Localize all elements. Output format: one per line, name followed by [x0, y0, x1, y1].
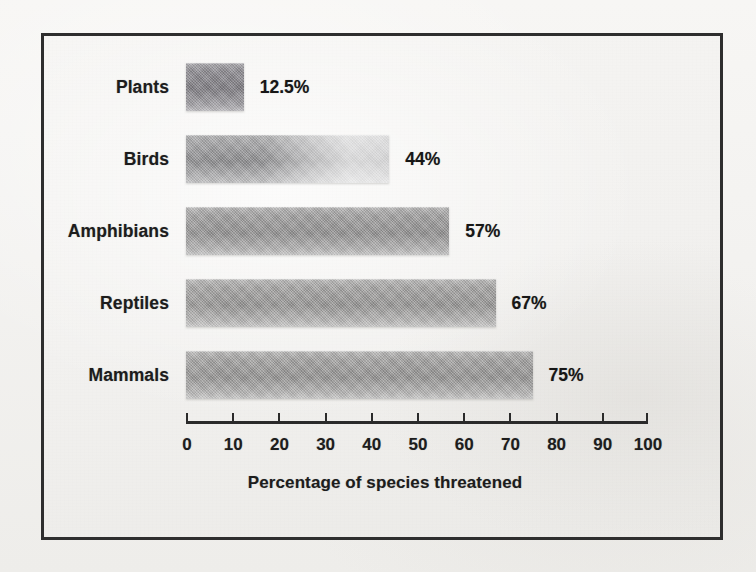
x-tick-label: 20 — [270, 435, 289, 455]
bar-row: Amphibians 57% — [44, 202, 726, 260]
bar-plants — [186, 63, 244, 111]
value-label-amphibians: 57% — [465, 221, 500, 242]
x-tick-label: 90 — [593, 435, 612, 455]
bar-amphibians — [186, 207, 449, 255]
x-axis-tick — [509, 413, 511, 424]
plot-area: Plants 12.5% Birds 44% Amphibians — [44, 36, 726, 543]
bar-group-birds: 44% — [186, 130, 440, 188]
x-tick-label: 0 — [182, 435, 191, 455]
x-axis-tick — [325, 413, 327, 424]
scanned-page: Plants 12.5% Birds 44% Amphibians — [0, 0, 756, 572]
category-label-amphibians: Amphibians — [68, 221, 169, 242]
x-tick-label: 40 — [362, 435, 381, 455]
x-tick-label: 100 — [634, 435, 662, 455]
bar-group-reptiles: 67% — [186, 274, 547, 332]
x-axis-tick — [602, 413, 604, 424]
bar-row: Mammals 75% — [44, 346, 726, 404]
category-label-birds: Birds — [124, 149, 169, 170]
value-label-plants: 12.5% — [260, 77, 310, 98]
bar-group-plants: 12.5% — [186, 58, 309, 116]
x-axis-tick — [278, 413, 280, 424]
x-tick-label: 10 — [224, 435, 243, 455]
x-tick-label: 30 — [316, 435, 335, 455]
value-label-mammals: 75% — [549, 365, 584, 386]
bar-group-mammals: 75% — [186, 346, 584, 404]
x-axis-title: Percentage of species threatened — [44, 473, 726, 493]
category-label-mammals: Mammals — [89, 365, 169, 386]
bar-mammals — [186, 351, 533, 399]
x-tick-label: 50 — [409, 435, 428, 455]
x-axis: 0 10 20 30 40 50 60 70 80 90 100 — [186, 421, 648, 424]
x-axis-tick — [371, 413, 373, 424]
bar-row: Birds 44% — [44, 130, 726, 188]
x-axis-tick — [232, 413, 234, 424]
x-tick-label: 80 — [547, 435, 566, 455]
bar-reptiles — [186, 279, 496, 327]
bar-row: Reptiles 67% — [44, 274, 726, 332]
x-axis-tick — [463, 413, 465, 424]
x-tick-label: 70 — [501, 435, 520, 455]
category-label-plants: Plants — [116, 77, 169, 98]
x-axis-tick — [417, 413, 419, 424]
x-axis-tick — [186, 413, 188, 424]
bar-row: Plants 12.5% — [44, 58, 726, 116]
bar-birds — [186, 135, 389, 183]
category-label-reptiles: Reptiles — [100, 293, 169, 314]
chart-frame: Plants 12.5% Birds 44% Amphibians — [41, 33, 723, 540]
x-axis-tick — [556, 413, 558, 424]
value-label-birds: 44% — [405, 149, 440, 170]
x-axis-tick — [646, 413, 648, 424]
x-tick-label: 60 — [455, 435, 474, 455]
value-label-reptiles: 67% — [512, 293, 547, 314]
bar-group-amphibians: 57% — [186, 202, 500, 260]
